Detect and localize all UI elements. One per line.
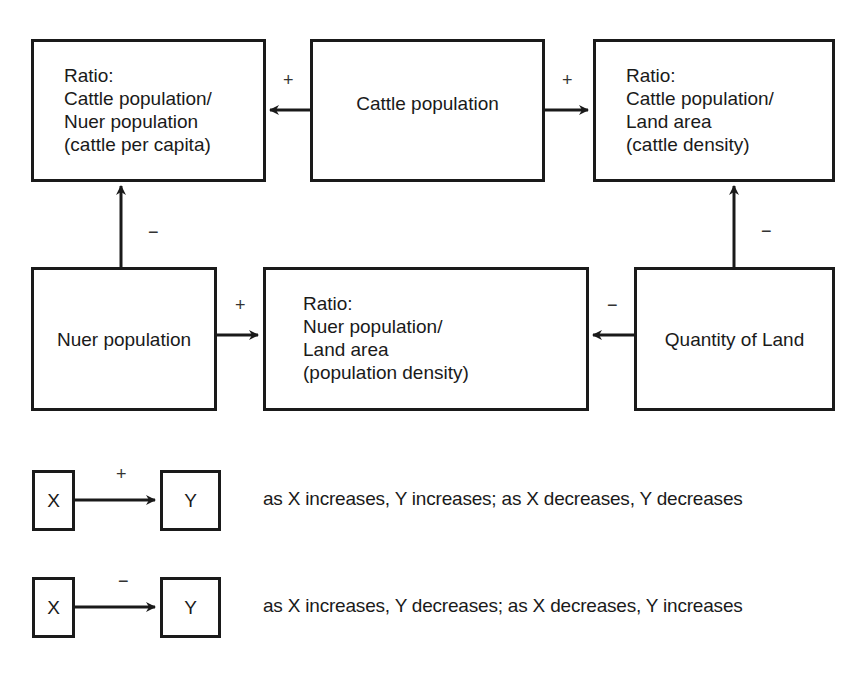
sign-land-to-cattle-density: − <box>761 221 772 242</box>
node-population-density: Ratio: Nuer population/ Land area (popul… <box>263 267 589 411</box>
legend-positive-x-box: X <box>32 470 75 531</box>
node-quantity-of-land: Quantity of Land <box>634 267 835 411</box>
node-cattle-per-capita: Ratio: Cattle population/ Nuer populatio… <box>31 39 266 182</box>
node-cattle-density: Ratio: Cattle population/ Land area (cat… <box>593 39 835 182</box>
legend-positive-sign: + <box>116 464 127 485</box>
legend-positive-y-label: Y <box>184 490 197 512</box>
legend-positive-y-box: Y <box>160 470 221 531</box>
sign-nuer-to-pop-density: + <box>235 295 246 316</box>
node-cattle-population-label: Cattle population <box>356 92 499 115</box>
legend-negative-description: as X increases, Y decreases; as X decrea… <box>263 595 743 617</box>
legend-negative-y-box: Y <box>160 577 221 638</box>
legend-positive-description: as X increases, Y increases; as X decrea… <box>263 488 743 510</box>
node-quantity-of-land-label: Quantity of Land <box>665 328 804 351</box>
node-population-density-label: Ratio: Nuer population/ Land area (popul… <box>303 292 469 384</box>
node-cattle-population: Cattle population <box>310 39 545 182</box>
node-nuer-population: Nuer population <box>31 267 217 411</box>
node-cattle-per-capita-label: Ratio: Cattle population/ Nuer populatio… <box>64 64 212 156</box>
legend-negative-x-label: X <box>47 597 60 619</box>
node-nuer-population-label: Nuer population <box>57 328 191 351</box>
sign-land-to-pop-density: − <box>607 295 618 316</box>
legend-positive-x-label: X <box>47 490 60 512</box>
sign-cattle-to-density: + <box>562 70 573 91</box>
legend-negative-y-label: Y <box>184 597 197 619</box>
legend-negative-sign: − <box>118 571 129 592</box>
legend-negative-x-box: X <box>32 577 75 638</box>
sign-nuer-to-per-capita: − <box>148 222 159 243</box>
sign-cattle-to-per-capita: + <box>283 70 294 91</box>
node-cattle-density-label: Ratio: Cattle population/ Land area (cat… <box>626 64 774 156</box>
